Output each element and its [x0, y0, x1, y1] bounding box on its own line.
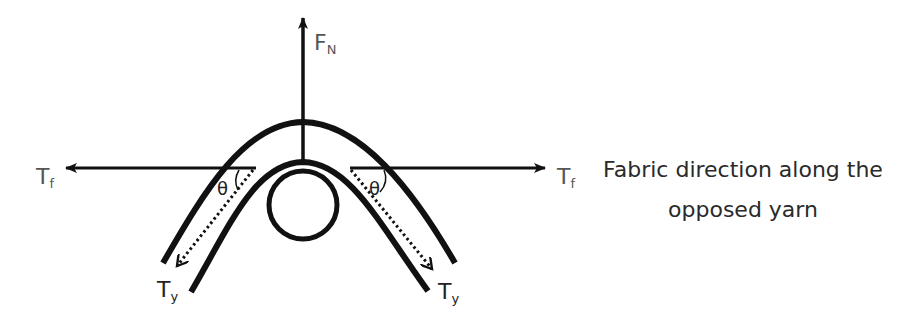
yarn-tension-left-sub: y	[170, 289, 178, 304]
yarn-tension-right-main: T	[438, 279, 451, 304]
caption-line-2: opposed yarn	[588, 190, 898, 230]
angle-right-label: θ	[369, 180, 380, 198]
yarn-tension-right-arrow	[351, 170, 432, 269]
yarn-tension-left-label: Ty	[157, 279, 178, 303]
normal-force-label: FN	[314, 32, 336, 56]
normal-force-label-main: F	[314, 30, 327, 55]
fabric-direction-caption: Fabric direction along the opposed yarn	[588, 150, 898, 230]
normal-force-label-sub: N	[327, 42, 337, 57]
caption-line-1: Fabric direction along the	[588, 150, 898, 190]
fabric-tension-right-sub: f	[570, 176, 575, 191]
opposed-yarn-cross-section	[269, 171, 337, 239]
angle-arc-right	[380, 170, 386, 192]
yarn-tension-right-label: Ty	[438, 281, 459, 305]
fabric-tension-right-label: Tf	[557, 166, 575, 190]
fabric-tension-right-main: T	[557, 164, 570, 189]
fabric-tension-left-sub: f	[49, 176, 54, 191]
fabric-tension-left-label: Tf	[36, 166, 54, 190]
yarn-tension-left-main: T	[157, 277, 170, 302]
angle-left-label: θ	[217, 180, 228, 198]
yarn-tension-right-sub: y	[451, 291, 459, 306]
fabric-tension-left-main: T	[36, 164, 49, 189]
